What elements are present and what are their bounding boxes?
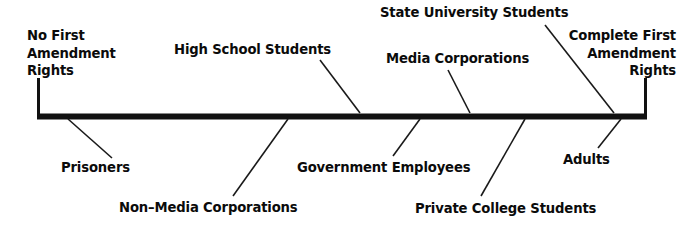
marker-label-non-media-corporations: Non–Media Corporations [119, 200, 298, 217]
marker-label-media-corporations: Media Corporations [386, 51, 529, 68]
leader-media-corporations [448, 70, 470, 113]
marker-label-adults: Adults [563, 152, 610, 169]
leader-government-employees [393, 119, 420, 156]
leader-high-school-students [320, 60, 360, 113]
marker-label-private-college-students: Private College Students [415, 201, 596, 218]
leader-prisoners [68, 119, 112, 158]
leader-non-media-corporations [233, 119, 288, 196]
marker-label-state-university-students: State University Students [380, 5, 568, 22]
spectrum-diagram: No First Amendment Rights Complete First… [0, 0, 684, 228]
leader-private-college-students [481, 119, 525, 196]
marker-label-government-employees: Government Employees [297, 160, 470, 177]
marker-label-high-school-students: High School Students [174, 42, 331, 59]
leader-adults [598, 119, 621, 148]
right-endpoint-label: Complete First Amendment Rights [569, 27, 676, 80]
left-endpoint-label: No First Amendment Rights [27, 27, 116, 80]
marker-label-prisoners: Prisoners [61, 160, 130, 177]
